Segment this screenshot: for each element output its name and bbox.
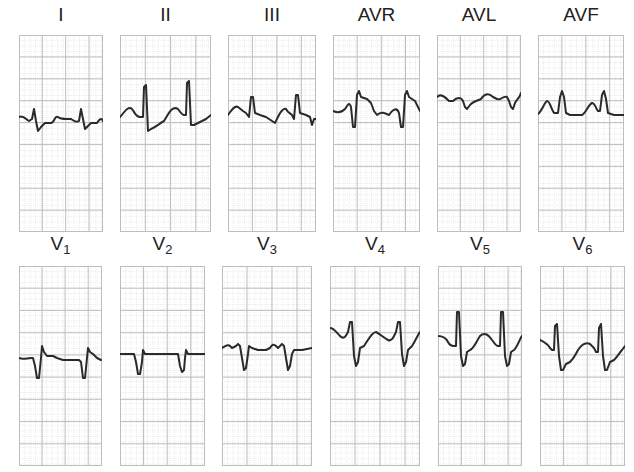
ecg-grid-panel — [120, 266, 205, 466]
lead-ii: II — [120, 3, 211, 232]
lead-avr: AVR — [333, 3, 420, 232]
lead-v1: V1 — [19, 234, 102, 466]
ecg-trace — [538, 91, 624, 115]
ecg-trace — [540, 324, 625, 370]
ecg-grid-panel — [330, 266, 420, 466]
ecg-trace — [120, 81, 211, 131]
ecg-grid-panel — [538, 35, 624, 232]
lead-label: III — [228, 5, 316, 25]
lead-avl: AVL — [437, 3, 521, 232]
lead-avf: AVF — [538, 3, 624, 232]
lead-v2: V2 — [120, 234, 205, 466]
lead-label: V4 — [330, 234, 420, 260]
lead-label: I — [19, 5, 103, 25]
lead-label: AVL — [437, 5, 521, 25]
ecg-grid-panel — [540, 266, 625, 466]
lead-v5: V5 — [438, 234, 522, 466]
lead-v3: V3 — [222, 234, 312, 466]
ecg-grid-panel — [228, 35, 316, 232]
lead-label: II — [120, 5, 211, 25]
lead-label: AVF — [538, 5, 624, 25]
ecg-trace — [222, 344, 312, 370]
ecg-grid-panel — [333, 35, 420, 232]
lead-label: V3 — [222, 234, 312, 260]
lead-label: V1 — [19, 234, 102, 260]
lead-label: V6 — [540, 234, 625, 260]
ecg-trace — [333, 91, 420, 127]
ecg-grid-panel — [438, 266, 522, 466]
ecg-grid-panel — [222, 266, 312, 466]
ecg-grid-panel — [19, 266, 102, 466]
lead-v6: V6 — [540, 234, 625, 466]
lead-label: AVR — [333, 5, 420, 25]
lead-label: V5 — [438, 234, 522, 260]
lead-label: V2 — [120, 234, 205, 260]
ecg-grid-panel — [437, 35, 521, 232]
ecg-grid-panel — [120, 35, 211, 232]
lead-i: I — [19, 3, 103, 232]
lead-iii: III — [228, 3, 316, 232]
lead-v4: V4 — [330, 234, 420, 466]
ecg-grid-panel — [19, 35, 103, 232]
